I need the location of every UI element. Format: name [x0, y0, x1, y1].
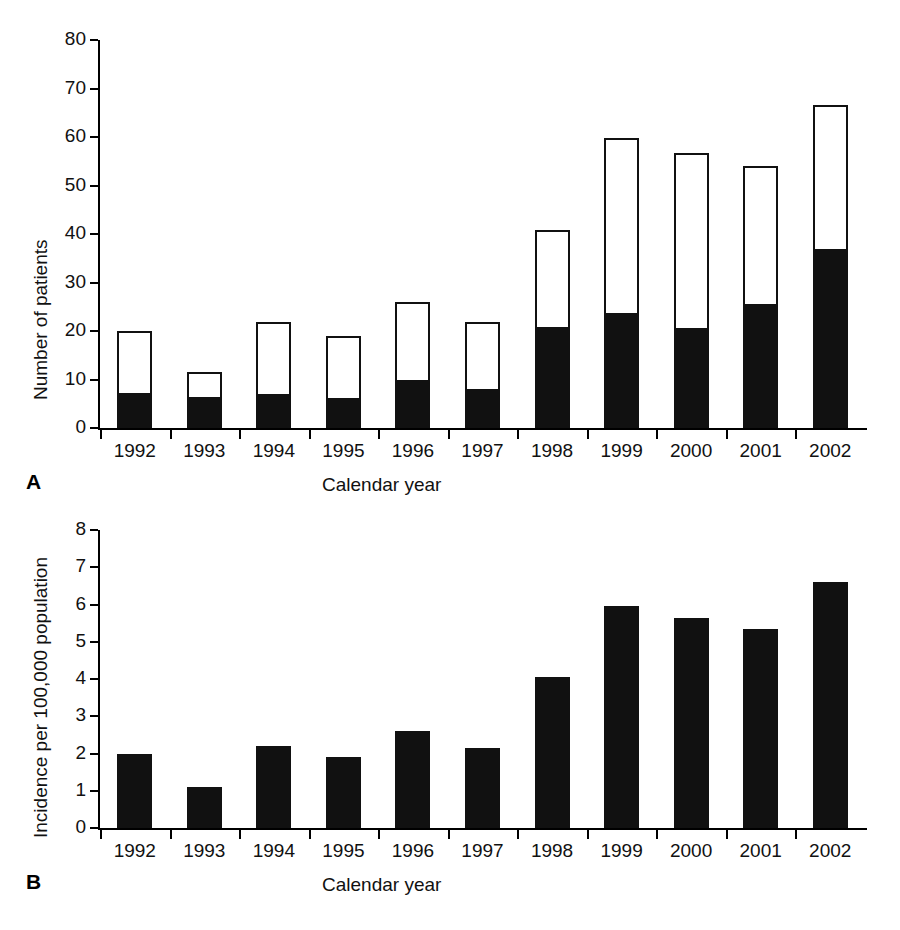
y-axis-tick-label: 80 [42, 28, 86, 50]
bar-filled-segment [119, 393, 150, 426]
x-axis-tick [587, 430, 589, 439]
x-axis-tick-label: 1993 [170, 440, 240, 462]
y-axis-tick [90, 566, 98, 568]
bar-filled-segment [745, 304, 776, 426]
bar [465, 748, 500, 828]
y-axis-tick [90, 715, 98, 717]
y-axis-tick [90, 827, 98, 829]
x-axis-tick-label: 1998 [517, 440, 587, 462]
y-axis-tick-label: 6 [42, 593, 86, 615]
bar [743, 629, 778, 828]
x-axis-tick [656, 830, 658, 839]
x-axis-tick [726, 430, 728, 439]
x-axis-line [98, 828, 867, 830]
bar [326, 336, 361, 428]
x-axis-tick-label: 2001 [726, 440, 796, 462]
y-axis-tick [90, 529, 98, 531]
panel-a: A Number of patients Calendar year 01020… [0, 0, 900, 520]
bar [813, 105, 848, 428]
bar-filled-segment [328, 398, 359, 426]
y-axis-tick-label: 40 [42, 222, 86, 244]
x-axis-tick [100, 430, 102, 439]
x-axis-tick [656, 430, 658, 439]
y-axis-tick-label: 4 [42, 667, 86, 689]
y-axis-tick-label: 10 [42, 368, 86, 390]
bar [535, 230, 570, 428]
y-axis-tick-label: 50 [42, 174, 86, 196]
x-axis-tick [170, 430, 172, 439]
x-axis-tick-label: 1992 [100, 840, 170, 862]
x-axis-tick [309, 830, 311, 839]
bar-filled-segment [676, 328, 707, 426]
bar [395, 302, 430, 428]
y-axis-tick-label: 20 [42, 319, 86, 341]
y-axis-line [98, 40, 100, 430]
x-axis-tick-label: 1995 [309, 440, 379, 462]
x-axis-tick-label: 2000 [656, 440, 726, 462]
x-axis-tick [378, 430, 380, 439]
bar-filled-segment [189, 397, 220, 426]
bar [465, 322, 500, 428]
bar-filled-segment [258, 394, 289, 426]
panel-b: B Incidence per 100,000 population Calen… [0, 500, 900, 930]
bar [395, 731, 430, 828]
y-axis-tick-label: 0 [42, 416, 86, 438]
x-axis-tick-label: 1996 [378, 840, 448, 862]
x-axis-tick [517, 430, 519, 439]
x-axis-tick [239, 830, 241, 839]
panel-b-plot-area: 0123456781992199319941995199619971998199… [0, 500, 900, 930]
x-axis-tick [170, 830, 172, 839]
x-axis-tick [378, 830, 380, 839]
x-axis-tick-label: 1997 [448, 440, 518, 462]
x-axis-tick [587, 830, 589, 839]
y-axis-tick-label: 0 [42, 816, 86, 838]
bar [187, 372, 222, 428]
bar [604, 606, 639, 828]
y-axis-tick [90, 185, 98, 187]
y-axis-tick [90, 641, 98, 643]
bar [535, 677, 570, 828]
x-axis-tick-label: 2001 [726, 840, 796, 862]
x-axis-tick [795, 830, 797, 839]
x-axis-tick [100, 830, 102, 839]
y-axis-tick [90, 379, 98, 381]
x-axis-tick-label: 2002 [795, 440, 865, 462]
y-axis-tick [90, 136, 98, 138]
bar-filled-segment [606, 313, 637, 426]
bar [326, 757, 361, 828]
y-axis-tick-label: 2 [42, 742, 86, 764]
x-axis-tick-label: 1994 [239, 440, 309, 462]
y-axis-tick-label: 30 [42, 271, 86, 293]
panel-a-plot-area: 0102030405060708019921993199419951996199… [0, 0, 900, 500]
y-axis-tick-label: 8 [42, 518, 86, 540]
y-axis-tick-label: 70 [42, 77, 86, 99]
x-axis-tick-label: 1994 [239, 840, 309, 862]
bar-filled-segment [397, 380, 428, 426]
x-axis-tick-label: 1995 [309, 840, 379, 862]
x-axis-tick-label: 1992 [100, 440, 170, 462]
x-axis-tick-label: 1999 [587, 840, 657, 862]
y-axis-tick-label: 5 [42, 630, 86, 652]
bar [187, 787, 222, 828]
y-axis-tick [90, 233, 98, 235]
figure-two-panel-bar-charts: A Number of patients Calendar year 01020… [0, 0, 900, 930]
y-axis-tick [90, 88, 98, 90]
bar [674, 618, 709, 828]
x-axis-tick [448, 430, 450, 439]
bar [117, 754, 152, 829]
bar-filled-segment [537, 327, 568, 426]
y-axis-tick [90, 39, 98, 41]
x-axis-tick [795, 430, 797, 439]
x-axis-line [98, 428, 867, 430]
bar [256, 322, 291, 428]
y-axis-tick [90, 604, 98, 606]
x-axis-tick-label: 1993 [170, 840, 240, 862]
y-axis-line [98, 530, 100, 830]
x-axis-tick [726, 830, 728, 839]
y-axis-tick-label: 3 [42, 704, 86, 726]
x-axis-tick-label: 1999 [587, 440, 657, 462]
y-axis-tick [90, 427, 98, 429]
x-axis-tick [309, 430, 311, 439]
bar [674, 153, 709, 428]
y-axis-tick-label: 7 [42, 555, 86, 577]
